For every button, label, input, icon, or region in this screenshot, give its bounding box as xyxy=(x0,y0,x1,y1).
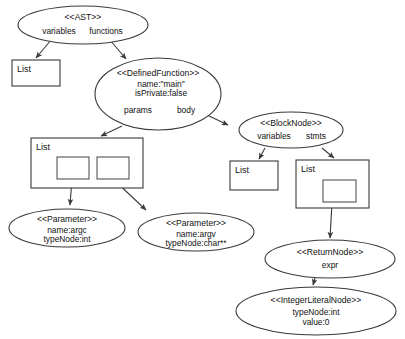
node-defined-function[interactable]: <<DefinedFunction>> name:"main" isPrivat… xyxy=(95,58,221,130)
list-stmts-label: List xyxy=(301,164,316,174)
node-list-variables[interactable]: List xyxy=(12,60,60,86)
parameter-argv-attr-type: typeNode:char** xyxy=(166,238,228,248)
block-node-title: <<BlockNode>> xyxy=(260,118,322,128)
edge-ast-functions-to-definedfunction xyxy=(110,40,126,59)
list-params-slot-1[interactable] xyxy=(97,157,129,179)
node-list-params[interactable]: List xyxy=(31,138,143,188)
node-parameter-argc[interactable]: <<Parameter>> name:argc typeNode:int xyxy=(9,209,125,247)
edge-definedfunction-params-to-list xyxy=(101,126,122,136)
parameter-argc-title: <<Parameter>> xyxy=(37,214,97,224)
defined-function-title: <<DefinedFunction>> xyxy=(117,68,200,78)
node-integer-literal-node[interactable]: <<IntegerLiteralNode>> typeNode:int valu… xyxy=(236,287,396,335)
list-params-label: List xyxy=(36,142,51,152)
return-node-title: <<ReturnNode>> xyxy=(297,247,363,257)
integer-literal-node-attr-value: value:0 xyxy=(302,317,329,327)
ast-slot-variables: variables xyxy=(42,26,76,36)
return-node-ellipse xyxy=(265,240,395,278)
block-node-slot-stmts: stmts xyxy=(306,131,326,141)
edge-ast-variables-to-list xyxy=(36,40,51,58)
defined-function-attr-private: isPrivate:false xyxy=(135,88,187,98)
list-params-slot-0[interactable] xyxy=(57,157,89,179)
parameter-argv-title: <<Parameter>> xyxy=(166,218,226,228)
list-variables-label: List xyxy=(17,64,32,74)
node-block-node[interactable]: <<BlockNode>> variables stmts xyxy=(239,112,343,148)
edge-blocknode-stmts-to-list xyxy=(322,148,334,158)
ast-title: <<AST>> xyxy=(65,12,102,22)
defined-function-slot-body: body xyxy=(177,105,196,115)
list-block-variables-label: List xyxy=(235,165,250,175)
node-parameter-argv[interactable]: <<Parameter>> name:argv typeNode:char** xyxy=(138,213,254,251)
ast-object-diagram: <<AST>> variables functions List <<Defin… xyxy=(0,0,405,339)
integer-literal-node-attr-type: typeNode:int xyxy=(292,307,340,317)
return-node-slot-expr: expr xyxy=(322,260,339,270)
edge-blocknode-variables-to-list xyxy=(259,148,265,159)
parameter-argc-attr-type: typeNode:int xyxy=(43,234,91,244)
edge-returnnode-expr-to-integerliteralnode xyxy=(313,278,315,285)
integer-literal-node-title: <<IntegerLiteralNode>> xyxy=(271,295,362,305)
defined-function-slot-params: params xyxy=(124,105,152,115)
list-stmts-slot-0[interactable] xyxy=(323,180,356,202)
node-ast[interactable]: <<AST>> variables functions xyxy=(18,6,148,44)
ast-slot-functions: functions xyxy=(89,26,123,36)
node-list-stmts[interactable]: List xyxy=(296,160,369,208)
node-list-block-variables[interactable]: List xyxy=(230,161,278,190)
node-return-node[interactable]: <<ReturnNode>> expr xyxy=(265,240,395,278)
block-node-slot-variables: variables xyxy=(257,131,291,141)
